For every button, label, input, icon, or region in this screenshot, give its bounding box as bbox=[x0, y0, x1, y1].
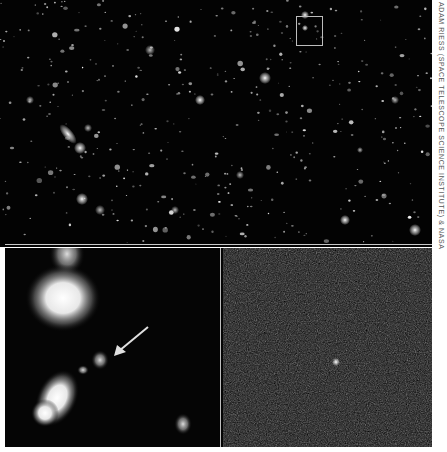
galaxy-field-image bbox=[0, 0, 432, 243]
noise-image bbox=[223, 248, 432, 447]
credit-strip: ADAM RIESS (SPACE TELESCOPE SCIENCE INST… bbox=[432, 0, 447, 260]
supernova-point bbox=[332, 358, 340, 366]
deep-field-panel bbox=[0, 0, 432, 243]
horizontal-divider bbox=[0, 243, 432, 247]
zoom-panel bbox=[5, 248, 219, 447]
highlight-box bbox=[296, 16, 323, 46]
image-credit: ADAM RIESS (SPACE TELESCOPE SCIENCE INST… bbox=[438, 2, 445, 249]
difference-panel bbox=[223, 248, 432, 447]
zoomed-galaxy-image bbox=[5, 248, 219, 447]
